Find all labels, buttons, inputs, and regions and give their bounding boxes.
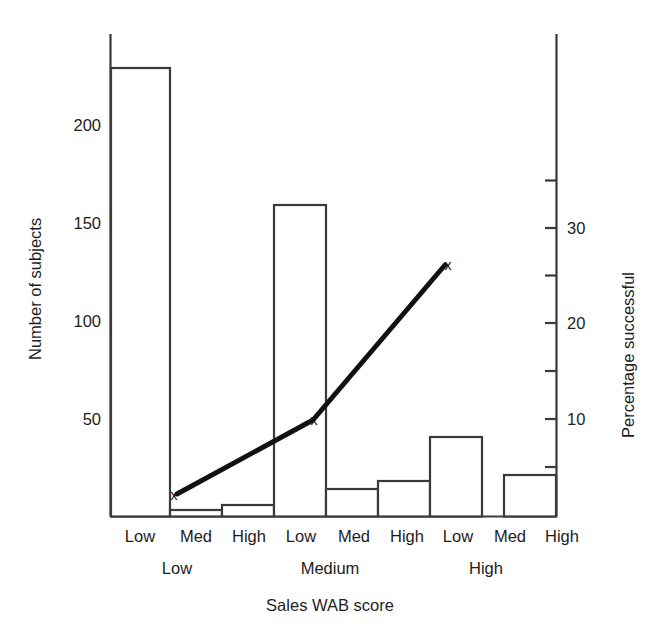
bar-medium-high (378, 481, 430, 517)
x-label-4: Low (286, 527, 316, 545)
x-label-5: Med (338, 527, 370, 545)
x-label-8: Med (494, 527, 526, 545)
percentage-marker-high: x (445, 257, 452, 273)
x-label-1: Low (125, 527, 155, 545)
bar-low-med (170, 510, 222, 517)
x-axis-group-labels: Low Medium High (162, 559, 503, 577)
chart-canvas: 200 150 100 50 Number of subjects 30 20 … (0, 0, 653, 638)
bar-medium-med (326, 489, 378, 517)
left-axis-tick-label-200: 200 (73, 116, 101, 134)
bar-series (111, 68, 556, 517)
bar-low-high (222, 505, 274, 517)
x-group-label-low: Low (162, 559, 192, 577)
x-group-label-high: High (469, 559, 503, 577)
right-axis-tick-label-20: 20 (567, 314, 585, 332)
right-axis-tick-label-30: 30 (567, 219, 585, 237)
left-axis-tick-label-100: 100 (73, 312, 101, 330)
right-axis: 30 20 10 Percentage successful (545, 34, 637, 517)
x-label-6: High (390, 527, 424, 545)
x-axis-category-labels: Low Med High Low Med High Low Med High (125, 527, 579, 545)
x-group-label-medium: Medium (301, 559, 360, 577)
left-axis-tick-label-50: 50 (83, 410, 101, 428)
x-label-3: High (232, 527, 266, 545)
figure-chart: 200 150 100 50 Number of subjects 30 20 … (0, 0, 653, 638)
x-label-7: Low (443, 527, 473, 545)
bar-high-high (504, 475, 556, 517)
right-axis-tick-label-10: 10 (567, 410, 585, 428)
left-axis-title: Number of subjects (26, 218, 44, 360)
right-axis-title: Percentage successful (619, 272, 637, 438)
bar-medium-low (274, 205, 326, 517)
x-label-9: High (545, 527, 579, 545)
percentage-marker-medium: x (311, 412, 318, 428)
bar-high-low (430, 437, 482, 517)
x-label-2: Med (180, 527, 212, 545)
bar-low-low (111, 68, 170, 517)
left-axis-tick-label-150: 150 (73, 214, 101, 232)
left-axis: 200 150 100 50 Number of subjects (26, 34, 122, 517)
x-axis-title: Sales WAB score (266, 596, 394, 614)
percentage-marker-low: x (171, 487, 178, 503)
